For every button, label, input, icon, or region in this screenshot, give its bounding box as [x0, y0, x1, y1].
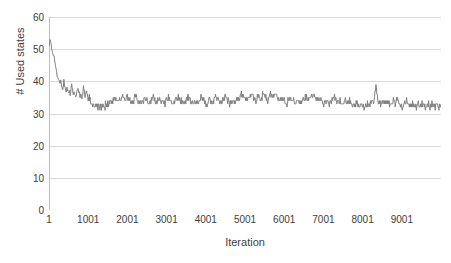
plot-area — [49, 17, 441, 210]
x-tick-label: 3001 — [155, 214, 177, 225]
gridlines — [49, 17, 441, 210]
chart-container: # Used states 0102030405060 110012001300… — [0, 0, 451, 263]
y-tick-label: 0 — [22, 205, 44, 216]
x-tick-label: 1001 — [77, 214, 99, 225]
x-tick-label: 5001 — [234, 214, 256, 225]
data-series-line — [49, 40, 441, 111]
x-axis-tick-labels: 1100120013001400150016001700180019001 — [49, 214, 441, 230]
x-axis-title: Iteration — [49, 236, 441, 248]
x-tick-label: 8001 — [352, 214, 374, 225]
x-tick-label: 1 — [46, 214, 52, 225]
x-tick-label: 4001 — [195, 214, 217, 225]
y-tick-label: 10 — [22, 172, 44, 183]
plot-svg — [49, 17, 441, 210]
y-tick-label: 60 — [22, 12, 44, 23]
x-tick-label: 9001 — [391, 214, 413, 225]
y-axis-tick-labels: 0102030405060 — [22, 10, 44, 215]
y-tick-label: 50 — [22, 44, 44, 55]
x-tick-label: 6001 — [273, 214, 295, 225]
x-tick-label: 7001 — [312, 214, 334, 225]
x-tick-label: 2001 — [116, 214, 138, 225]
y-tick-label: 30 — [22, 108, 44, 119]
y-tick-label: 20 — [22, 140, 44, 151]
y-tick-label: 40 — [22, 76, 44, 87]
